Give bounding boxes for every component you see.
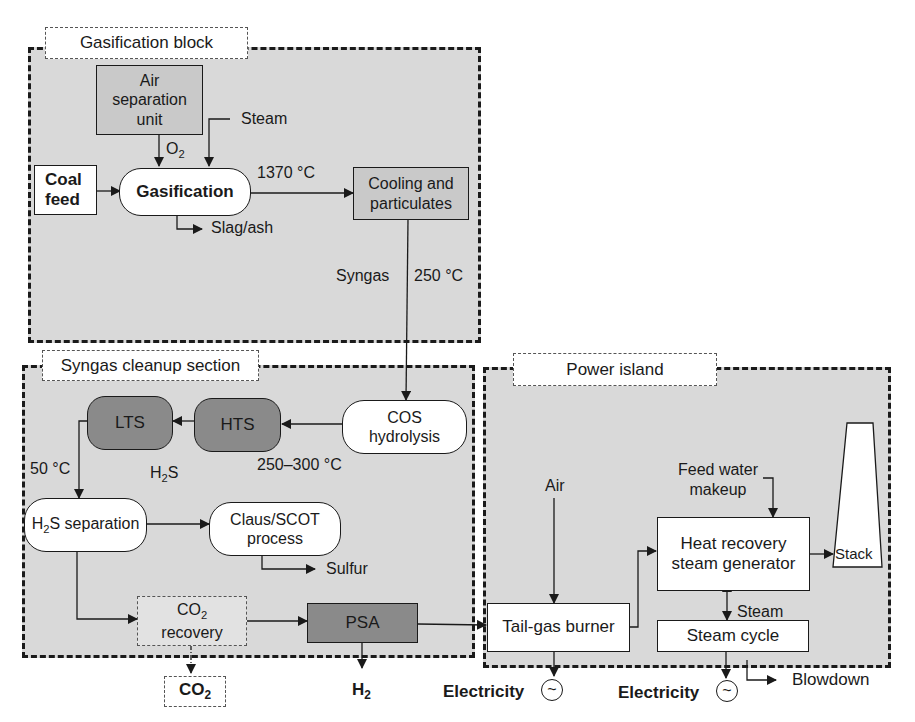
psa-label: PSA [345,613,379,633]
coal-feed: Coal feed [34,165,97,215]
lts-label: LTS [115,413,145,433]
o2-subscript: 2 [178,148,184,160]
claus-scot-unit: Claus/SCOT process [209,502,341,556]
hts-label: HTS [221,415,255,435]
hts-unit: HTS [194,398,281,452]
tail-gas-burner-unit: Tail-gas burner [487,603,630,652]
gasification-unit: Gasification [119,168,251,216]
stack-label: Stack [835,545,873,562]
o2-label: O2 [166,140,185,160]
co2-recovery-unit: CO2 recovery [137,596,247,646]
slag-ash-label: Slag/ash [211,219,273,237]
co2-output-subscript: 2 [204,689,211,703]
h2s-separation-unit: H2S separation [24,498,147,552]
hrsg-unit: Heat recovery steam generator [657,517,810,591]
steam-loop-label: Steam [737,603,783,621]
co2-recovery-label: recovery [161,623,222,642]
cooling-unit-label: Cooling and particulates [354,174,468,212]
generator-icon-1: ~ [541,679,563,701]
steam-cycle-label: Steam cycle [687,626,780,646]
electricity-label-1: Electricity [443,682,524,702]
temperature-1370-label: 1370 °C [257,164,315,182]
h2-output-subscript: 2 [364,688,371,702]
h2s-separation-label: H2S separation [32,514,140,537]
h2s-stream-label: H2S [150,464,178,484]
air-separation-unit: Air separation unit [96,65,203,135]
cos-hydrolysis-unit: COS hydrolysis [342,400,467,454]
blowdown-label: Blowdown [792,670,870,690]
sine-wave-icon-2: ~ [722,683,731,699]
h2s-text: H [150,464,162,481]
steam-cycle-unit: Steam cycle [657,620,809,652]
temperature-50-label: 50 °C [30,460,70,478]
h2-output-label: H2 [352,680,371,702]
gasification-unit-label: Gasification [136,182,233,202]
lts-unit: LTS [87,396,173,450]
co2-output-label: CO2 [179,680,211,703]
h2-output-text: H [352,680,364,699]
psa-unit: PSA [307,603,418,643]
co2-output-text: CO [179,680,205,699]
electricity-label-2: Electricity [618,683,699,703]
cos-hydrolysis-label: COS hydrolysis [365,408,445,446]
gasification-block-label: Gasification block [45,27,248,59]
air-separation-unit-label: Air separation unit [107,71,192,129]
co2-recovery-title: CO2 [177,600,207,623]
coal-feed-label: Coal feed [45,170,96,211]
hrsg-label: Heat recovery steam generator [664,534,804,575]
sine-wave-icon-1: ~ [547,682,556,698]
h2s-tail: S [168,464,179,481]
temperature-250-300-label: 250–300 °C [257,456,342,474]
power-island-label: Power island [513,353,717,386]
syngas-cleanup-section-label: Syngas cleanup section [42,350,259,381]
syngas-label: Syngas [336,267,389,285]
generator-icon-2: ~ [716,680,738,702]
air-input-label: Air [545,477,565,495]
temperature-250-label: 250 °C [414,267,463,285]
h2s-separation-text: S separation [49,515,139,532]
o2-text: O [166,140,178,157]
tail-gas-burner-label: Tail-gas burner [502,617,614,637]
cooling-particulates-unit: Cooling and particulates [353,167,469,220]
co2-output: CO2 [164,676,226,707]
feed-water-makeup-label: Feed water makeup [668,460,768,500]
claus-scot-label: Claus/SCOT process [220,510,330,548]
sulfur-label: Sulfur [326,560,368,578]
steam-input-label: Steam [241,110,287,128]
